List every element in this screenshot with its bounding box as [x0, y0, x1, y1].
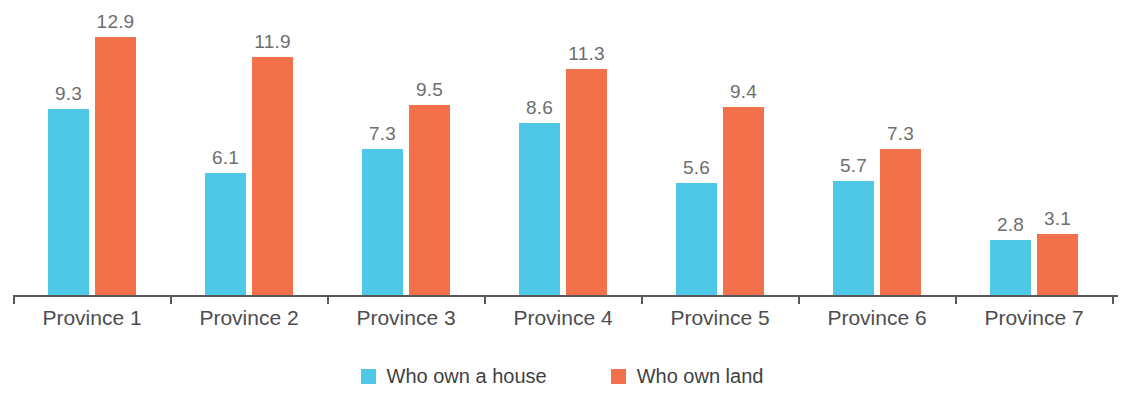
- legend-swatch-icon: [611, 369, 626, 384]
- bar[interactable]: [566, 69, 607, 296]
- bar-column[interactable]: 11.9: [252, 27, 293, 296]
- bar[interactable]: [205, 173, 246, 296]
- axis-tick: [327, 297, 329, 304]
- plot-area: 9.312.96.111.97.39.58.611.35.69.45.77.32…: [0, 0, 1124, 302]
- bar[interactable]: [519, 123, 560, 296]
- bar-value-label: 8.6: [519, 97, 560, 119]
- bar-column[interactable]: 5.6: [676, 153, 717, 296]
- bar-column[interactable]: 2.8: [990, 210, 1031, 296]
- category-label: Province 5: [646, 306, 794, 330]
- bar-group: 5.77.3: [833, 6, 921, 296]
- category-label: Province 1: [18, 306, 166, 330]
- bar-column[interactable]: 11.3: [566, 39, 607, 296]
- bar[interactable]: [48, 109, 89, 296]
- x-axis-line: [13, 295, 1118, 297]
- bar[interactable]: [409, 105, 450, 296]
- bar[interactable]: [723, 107, 764, 296]
- axis-tick: [13, 297, 15, 304]
- bar-column[interactable]: 7.3: [880, 119, 921, 296]
- bar[interactable]: [990, 240, 1031, 296]
- category-label: Province 2: [175, 306, 323, 330]
- bar-column[interactable]: 12.9: [95, 7, 136, 296]
- bar[interactable]: [676, 183, 717, 296]
- axis-tick: [798, 297, 800, 304]
- axis-tick: [955, 297, 957, 304]
- axis-tick: [1112, 297, 1114, 304]
- legend-item[interactable]: Who own land: [611, 365, 764, 388]
- category-label: Province 3: [332, 306, 480, 330]
- bar[interactable]: [252, 57, 293, 296]
- grouped-bar-chart: 9.312.96.111.97.39.58.611.35.69.45.77.32…: [0, 0, 1124, 394]
- bar-group: 8.611.3: [519, 6, 607, 296]
- legend-label: Who own land: [637, 365, 764, 388]
- bar-column[interactable]: 6.1: [205, 143, 246, 296]
- bar-value-label: 9.5: [409, 79, 450, 101]
- bar-group: 9.312.9: [48, 6, 136, 296]
- bar-column[interactable]: 9.5: [409, 75, 450, 296]
- bar-value-label: 9.3: [48, 83, 89, 105]
- bar-value-label: 9.4: [723, 81, 764, 103]
- axis-tick: [484, 297, 486, 304]
- bar-value-label: 11.3: [566, 43, 607, 65]
- bar-value-label: 7.3: [362, 123, 403, 145]
- axis-tick: [641, 297, 643, 304]
- bar-column[interactable]: 7.3: [362, 119, 403, 296]
- category-label: Province 4: [489, 306, 637, 330]
- bar[interactable]: [1037, 234, 1078, 296]
- chart-legend: Who own a houseWho own land: [0, 362, 1124, 390]
- bar-column[interactable]: 8.6: [519, 93, 560, 296]
- bar[interactable]: [362, 149, 403, 296]
- axis-tick: [170, 297, 172, 304]
- bar-value-label: 6.1: [205, 147, 246, 169]
- bar-value-label: 11.9: [252, 31, 293, 53]
- bar-value-label: 12.9: [95, 11, 136, 33]
- bar-group: 7.39.5: [362, 6, 450, 296]
- bar[interactable]: [833, 181, 874, 296]
- category-label: Province 7: [960, 306, 1108, 330]
- bar-value-label: 3.1: [1037, 208, 1078, 230]
- bar-column[interactable]: 5.7: [833, 151, 874, 296]
- category-axis-labels: Province 1Province 2Province 3Province 4…: [0, 306, 1124, 340]
- bar-value-label: 5.7: [833, 155, 874, 177]
- category-label: Province 6: [803, 306, 951, 330]
- legend-label: Who own a house: [387, 365, 547, 388]
- bar-column[interactable]: 9.3: [48, 79, 89, 296]
- bar-value-label: 2.8: [990, 214, 1031, 236]
- bar-group: 5.69.4: [676, 6, 764, 296]
- bar-group: 2.83.1: [990, 6, 1078, 296]
- bar[interactable]: [95, 37, 136, 296]
- legend-swatch-icon: [361, 369, 376, 384]
- bar-group: 6.111.9: [205, 6, 293, 296]
- legend-item[interactable]: Who own a house: [361, 365, 547, 388]
- bar[interactable]: [880, 149, 921, 296]
- bar-value-label: 7.3: [880, 123, 921, 145]
- bar-value-label: 5.6: [676, 157, 717, 179]
- bar-column[interactable]: 9.4: [723, 77, 764, 296]
- bar-column[interactable]: 3.1: [1037, 204, 1078, 296]
